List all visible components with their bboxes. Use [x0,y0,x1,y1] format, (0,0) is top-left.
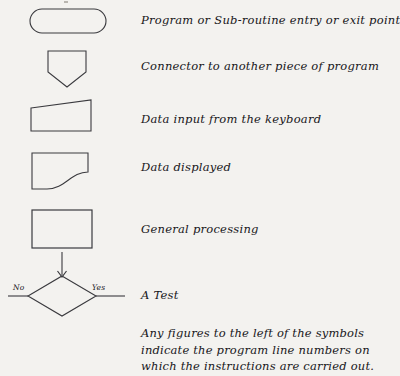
note-line-1: Any figures to the left of the symbols [141,325,366,342]
display-curved-shape [31,152,89,190]
branch-label-yes: Yes [92,283,105,292]
decision-diamond-shape [6,252,130,318]
scan-speck [64,1,68,3]
legend-label-connector: Connector to another piece of program [141,59,379,73]
branch-label-no: No [13,283,24,292]
note-line-3: which the instructions are carried out. [141,358,366,375]
keyboard-input-trapezoid-shape [30,99,92,132]
legend-label-process: General processing [141,222,259,236]
process-rectangle-shape [31,209,93,249]
legend-label-test: A Test [141,288,179,302]
legend-label-display: Data displayed [141,160,231,174]
connector-pentagon-shape [47,50,87,88]
rounded-terminator-shape [29,8,107,34]
legend-label-keyboard-input: Data input from the keyboard [141,112,321,126]
legend-label-terminator: Program or Sub-routine entry or exit poi… [141,13,400,27]
explanatory-note: Any figures to the left of the symbols i… [141,325,366,375]
note-line-2: indicate the program line numbers on [141,342,366,359]
